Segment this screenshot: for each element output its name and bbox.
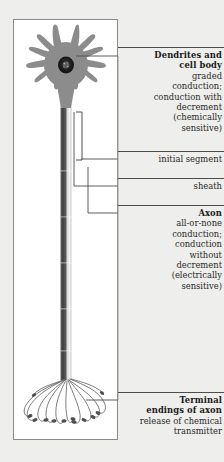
neuron-illustration bbox=[14, 20, 117, 439]
label-dendrites-heading-line2: cell body bbox=[120, 60, 222, 70]
label-sheath: sheath bbox=[120, 181, 222, 191]
label-terminal-heading-line1: Terminal bbox=[120, 395, 222, 405]
label-axon-body-line3: conduction bbox=[120, 239, 222, 249]
rule-sheath bbox=[118, 178, 224, 179]
label-axon-body-line4: without bbox=[120, 250, 222, 260]
rule-axon bbox=[118, 205, 224, 206]
label-axon: Axon all-or-none conduction; conduction … bbox=[120, 208, 222, 291]
rule-dendrites bbox=[118, 47, 224, 48]
label-axon-body-line1: all-or-none bbox=[120, 218, 222, 228]
label-sheath-text: sheath bbox=[120, 181, 222, 191]
label-dendrites-body-line6: sensitive) bbox=[120, 123, 222, 133]
label-terminal-body-line2: transmitter bbox=[120, 426, 222, 436]
neuron-diagram-panel bbox=[13, 19, 118, 440]
rule-initial-segment bbox=[118, 151, 224, 152]
label-column: Dendrites and cell body graded conductio… bbox=[118, 0, 224, 462]
label-dendrites-body-line5: (chemically bbox=[120, 112, 222, 122]
rule-terminal bbox=[118, 392, 224, 393]
label-dendrites-and-cell-body: Dendrites and cell body graded conductio… bbox=[120, 50, 222, 133]
figure-container: Dendrites and cell body graded conductio… bbox=[0, 0, 224, 462]
label-dendrites-heading-line1: Dendrites and bbox=[120, 50, 222, 60]
axon-shaft bbox=[61, 108, 72, 380]
label-axon-body-line5: decrement bbox=[120, 260, 222, 270]
label-terminal-body-line1: release of chemical bbox=[120, 416, 222, 426]
nucleus bbox=[58, 57, 74, 74]
label-axon-body-line7: sensitive) bbox=[120, 281, 222, 291]
label-dendrites-body-line4: decrement bbox=[120, 102, 222, 112]
label-dendrites-body-line3: conduction with bbox=[120, 92, 222, 102]
label-initial-segment-text: initial segment bbox=[120, 154, 222, 164]
label-axon-heading: Axon bbox=[120, 208, 222, 218]
label-dendrites-body-line2: conduction; bbox=[120, 81, 222, 91]
label-axon-body-line6: (electrically bbox=[120, 270, 222, 280]
label-terminal-heading-line2: endings of axon bbox=[120, 405, 222, 415]
label-dendrites-body-line1: graded bbox=[120, 71, 222, 81]
label-terminal-endings: Terminal endings of axon release of chem… bbox=[120, 395, 222, 437]
label-initial-segment: initial segment bbox=[120, 154, 222, 164]
initial-segment-bracket bbox=[76, 112, 82, 160]
label-axon-body-line2: conduction; bbox=[120, 229, 222, 239]
